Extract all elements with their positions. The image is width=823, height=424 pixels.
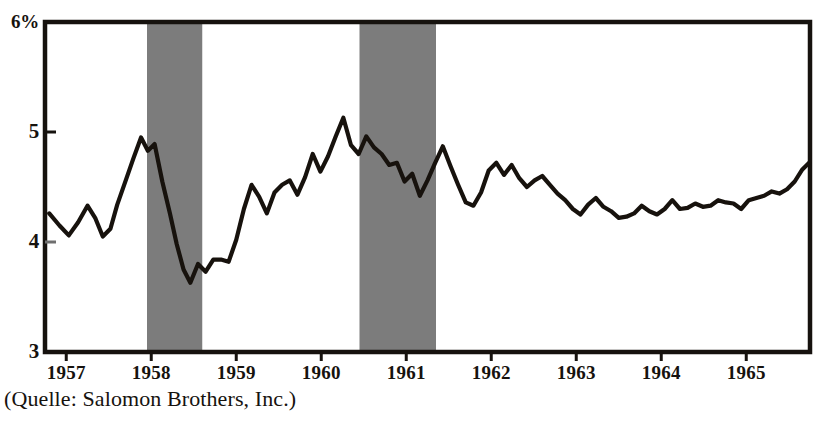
x-axis-label-1963: 1963 (536, 362, 616, 384)
line-chart-canvas (0, 0, 823, 424)
x-axis-label-1960: 1960 (281, 362, 361, 384)
y-axis-label-3: 3 (29, 339, 39, 364)
x-axis-label-1962: 1962 (451, 362, 531, 384)
recession-band-1 (147, 22, 202, 352)
y-axis-label-6: 6% (11, 11, 39, 33)
source-caption: (Quelle: Salomon Brothers, Inc.) (4, 386, 296, 412)
y-axis-label-5: 5 (29, 119, 39, 144)
y-axis-label-4: 4 (29, 229, 39, 254)
chart-figure: 6%543 1957195819591960196119621963196419… (0, 0, 823, 424)
x-axis-label-1961: 1961 (366, 362, 446, 384)
x-axis-label-1964: 1964 (621, 362, 701, 384)
x-axis-label-1957: 1957 (26, 362, 106, 384)
x-axis-label-1958: 1958 (111, 362, 191, 384)
x-axis-label-1959: 1959 (196, 362, 276, 384)
x-axis-label-1965: 1965 (706, 362, 786, 384)
